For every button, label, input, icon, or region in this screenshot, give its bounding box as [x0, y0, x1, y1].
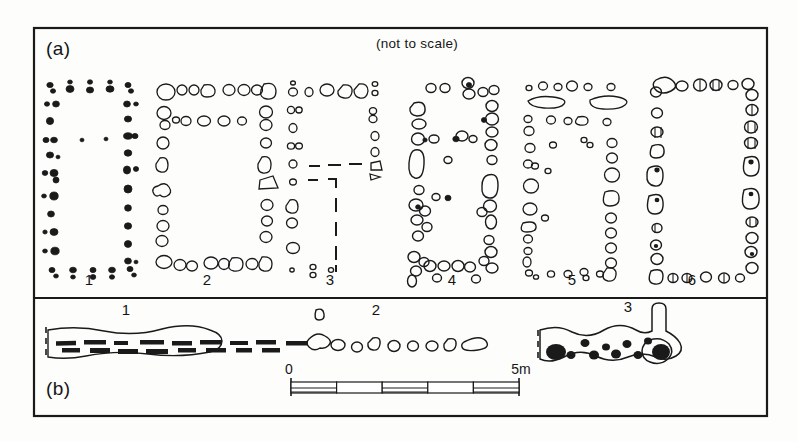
- figure-container: (a) (not to scale): [0, 0, 798, 442]
- not-to-scale-note: (not to scale): [376, 36, 458, 51]
- plan-2-number: 2: [203, 271, 211, 288]
- archaeology-plan-figure: (a) (not to scale): [0, 0, 798, 442]
- plan-6-number: 6: [688, 271, 696, 288]
- scale-end-label: 5m: [511, 361, 530, 377]
- panel-a-label: (a): [46, 38, 70, 59]
- item-b2-number: 2: [372, 301, 380, 318]
- item-b3-number: 3: [624, 298, 632, 315]
- scale-start-label: 0: [285, 361, 293, 377]
- figure-background: [0, 0, 798, 442]
- panel-b-label: (b): [46, 378, 70, 399]
- plan-1-number: 1: [85, 271, 93, 288]
- plan-4-number: 4: [448, 271, 456, 288]
- plan-5-number: 5: [568, 271, 576, 288]
- plan-3-number: 3: [326, 271, 334, 288]
- item-b1-number: 1: [122, 301, 130, 318]
